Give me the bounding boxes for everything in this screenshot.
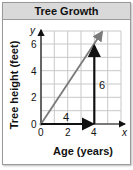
- y-tick-6: 6: [31, 39, 37, 50]
- grid: [41, 31, 121, 124]
- y-tick-2: 2: [31, 92, 37, 103]
- y-letter: y: [29, 25, 36, 36]
- run-label: 4: [63, 111, 69, 123]
- x-tick-4: 4: [91, 127, 97, 138]
- x-tick-0: 0: [38, 127, 44, 138]
- y-tick-4: 4: [31, 66, 37, 77]
- x-tick-2: 2: [65, 127, 71, 138]
- plot-area: y x 6 4 2 0 0 2 4 4 6: [0, 0, 133, 170]
- rise-label: 6: [99, 79, 105, 91]
- x-letter: x: [121, 127, 128, 138]
- y-tick-0: 0: [31, 119, 37, 130]
